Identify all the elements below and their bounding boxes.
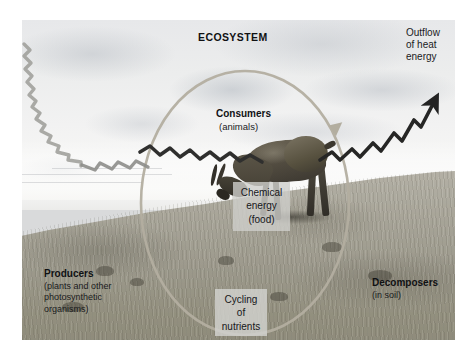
page-title: ECOSYSTEM (198, 31, 268, 43)
label-decomposers-subtitle: (in soil) (372, 290, 401, 301)
wavy-energy-path-through-ecosystem (140, 146, 262, 162)
wavy-arrow-incoming-light-segment (82, 161, 148, 170)
label-decomposers-title: Decomposers (372, 277, 438, 289)
label-consumers-subtitle: (animals) (219, 121, 258, 132)
cycle-direction-arrowhead-icon (329, 118, 347, 136)
wavy-arrow-incoming-light-icon (24, 44, 81, 166)
label-producers-title: Producers (44, 268, 93, 280)
ecosystem-diagram-figure: ECOSYSTEM Outflow of heat energy Consume… (0, 0, 476, 359)
label-chemical-energy-box: Chemical energy (food) (233, 182, 290, 231)
label-producers-subtitle: (plants and other photosynthetic organis… (44, 281, 136, 315)
label-consumers-title: Consumers (216, 108, 271, 120)
label-outflow-of-heat-energy: Outflow of heat energy (406, 27, 472, 62)
label-cycling-of-nutrients-box: Cycling of nutrients (215, 289, 267, 336)
